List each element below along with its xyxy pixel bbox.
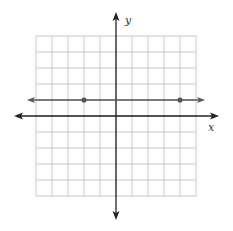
data-point [81, 97, 86, 102]
x-axis-label: x [208, 121, 214, 134]
y-axis-label: y [125, 14, 131, 27]
coordinate-plane [0, 0, 233, 231]
axes [14, 12, 219, 220]
data-point [177, 97, 182, 102]
